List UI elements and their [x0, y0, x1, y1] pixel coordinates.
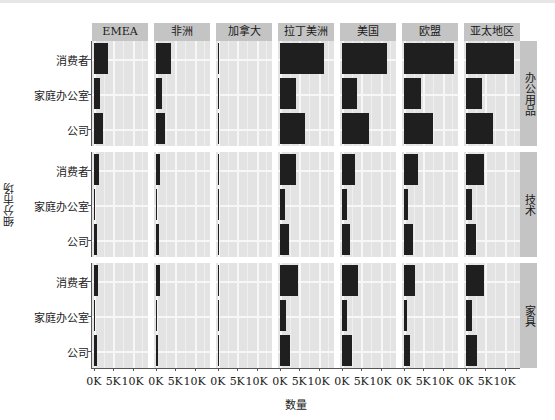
x-tick: [404, 368, 405, 371]
panel: [402, 41, 458, 146]
x-tick-label: 5K: [478, 375, 493, 388]
x-tick-label: 0K: [396, 375, 411, 388]
bar: [342, 300, 347, 332]
category-gridline: [92, 316, 148, 318]
bar: [466, 265, 484, 297]
category-gridline: [154, 281, 210, 283]
category-gridline: [216, 281, 272, 283]
bar: [466, 300, 472, 332]
x-tick: [485, 368, 486, 371]
column-strip-4: 美国: [340, 23, 396, 41]
x-tick: [113, 368, 114, 371]
y-tick-label: 公司: [67, 122, 89, 138]
column-strip-3: 拉丁美洲: [278, 23, 334, 41]
x-tick: [237, 368, 238, 371]
bar: [404, 189, 408, 221]
category-gridline: [216, 316, 272, 318]
x-tick: [195, 368, 196, 371]
x-tick-label: 10K: [431, 375, 453, 388]
panel: [464, 41, 520, 146]
bar: [404, 224, 413, 256]
x-axis-title: 数量: [285, 396, 307, 412]
row-strip-0: 办公用品: [520, 41, 537, 146]
category-gridline: [216, 59, 272, 61]
bar: [94, 335, 97, 367]
bar: [218, 154, 219, 186]
y-axis-line: [91, 263, 92, 368]
panel: [464, 263, 520, 368]
bar: [218, 113, 219, 145]
panel: [154, 41, 210, 146]
x-tick: [94, 368, 95, 371]
x-tick: [175, 368, 176, 371]
bar: [218, 189, 219, 221]
x-tick: [381, 368, 382, 371]
bar: [404, 113, 433, 145]
bar: [94, 265, 98, 297]
bar: [342, 43, 388, 75]
bar: [156, 189, 158, 221]
x-tick-label: 5K: [292, 375, 307, 388]
bar: [218, 43, 219, 75]
x-tick-label: 0K: [272, 375, 287, 388]
x-tick-label: 10K: [369, 375, 391, 388]
bar: [94, 300, 96, 332]
bar: [404, 265, 415, 297]
x-tick-label: 0K: [148, 375, 163, 388]
bar: [280, 335, 290, 367]
category-gridline: [92, 240, 148, 242]
category-gridline: [340, 205, 396, 207]
y-tick-label: 家庭办公室: [34, 309, 89, 325]
bar: [342, 265, 358, 297]
bar: [280, 154, 296, 186]
category-gridline: [216, 240, 272, 242]
category-gridline: [92, 281, 148, 283]
panel: [340, 263, 396, 368]
bar: [94, 189, 96, 221]
y-axis-line: [91, 41, 92, 146]
panel: [278, 263, 334, 368]
category-gridline: [278, 316, 334, 318]
category-gridline: [154, 351, 210, 353]
bar: [280, 43, 324, 75]
column-strip-6: 亚太地区: [464, 23, 520, 41]
bar: [342, 113, 369, 145]
bar: [466, 224, 476, 256]
row-strip-2: 家具: [520, 263, 537, 368]
x-tick: [257, 368, 258, 371]
bar: [280, 189, 285, 221]
panel: [402, 152, 458, 257]
y-tick-label: 消费者: [56, 52, 89, 68]
top-border: [0, 0, 555, 3]
bar: [156, 300, 158, 332]
category-gridline: [92, 205, 148, 207]
bar: [342, 78, 357, 110]
category-gridline: [154, 316, 210, 318]
bar: [342, 335, 352, 367]
bar: [218, 300, 219, 332]
y-tick-label: 家庭办公室: [34, 87, 89, 103]
bar: [218, 78, 219, 110]
bar: [94, 43, 108, 75]
bar: [156, 78, 162, 110]
column-strip-2: 加拿大: [216, 23, 272, 41]
x-tick-label: 5K: [230, 375, 245, 388]
bar: [156, 113, 165, 145]
category-gridline: [92, 351, 148, 353]
x-tick-label: 5K: [168, 375, 183, 388]
category-gridline: [154, 170, 210, 172]
panel: [154, 263, 210, 368]
x-tick: [299, 368, 300, 371]
x-tick: [423, 368, 424, 371]
panel: [402, 263, 458, 368]
x-tick-label: 0K: [458, 375, 473, 388]
bar: [342, 189, 347, 221]
category-gridline: [92, 170, 148, 172]
panel: [464, 152, 520, 257]
bar: [466, 154, 484, 186]
bar: [218, 265, 219, 297]
x-tick-label: 0K: [210, 375, 225, 388]
bar: [156, 335, 158, 367]
column-strip-0: EMEA: [92, 23, 148, 41]
bar: [404, 154, 418, 186]
